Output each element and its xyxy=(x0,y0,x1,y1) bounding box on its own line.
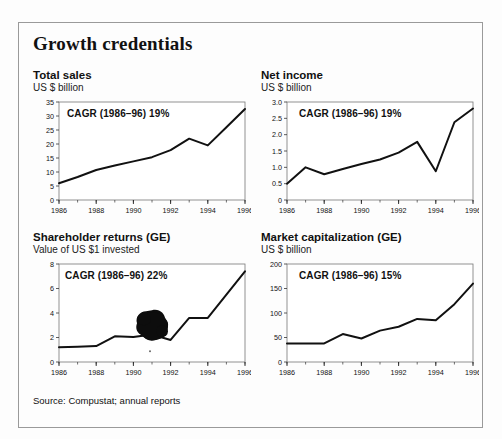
svg-text:1988: 1988 xyxy=(88,368,104,377)
svg-text:1992: 1992 xyxy=(163,206,179,215)
chart-title: Total sales xyxy=(33,69,251,82)
svg-text:5: 5 xyxy=(50,182,54,191)
page-title: Growth credentials xyxy=(33,33,193,55)
svg-text:1996: 1996 xyxy=(237,368,251,377)
chart-subtitle: Value of US $1 invested xyxy=(33,244,251,256)
chart-panel-market-capitalization: Market capitalization (GE) US $ billion … xyxy=(261,231,479,391)
svg-text:1988: 1988 xyxy=(316,368,332,377)
svg-text:4: 4 xyxy=(50,309,54,318)
chart-panel-net-income: Net income US $ billion 00.51.01.52.02.5… xyxy=(261,69,479,229)
figure-frame: Growth credentials Total sales US $ bill… xyxy=(18,22,483,428)
svg-text:50: 50 xyxy=(274,333,282,342)
svg-text:6: 6 xyxy=(50,284,54,293)
plot-area: 05101520253035198619881990199219941996 C… xyxy=(33,96,251,226)
svg-text:1990: 1990 xyxy=(353,206,369,215)
svg-text:1986: 1986 xyxy=(279,368,295,377)
svg-text:0: 0 xyxy=(50,196,54,205)
plot-area: 02468198619881990199219941996 CAGR (1986… xyxy=(33,258,251,388)
plot-area: 00.51.01.52.02.53.0198619881990199219941… xyxy=(261,96,479,226)
svg-text:10: 10 xyxy=(46,168,54,177)
chart-panel-total-sales: Total sales US $ billion 051015202530351… xyxy=(33,69,251,229)
svg-text:2.0: 2.0 xyxy=(272,130,282,139)
svg-text:3.0: 3.0 xyxy=(272,98,282,107)
svg-text:1.0: 1.0 xyxy=(272,163,282,172)
svg-text:1990: 1990 xyxy=(125,368,141,377)
svg-text:1994: 1994 xyxy=(428,368,444,377)
svg-text:35: 35 xyxy=(46,98,54,107)
chart-title: Net income xyxy=(261,69,479,82)
cagr-annotation: CAGR (1986–96) 22% xyxy=(65,270,167,281)
svg-text:1992: 1992 xyxy=(163,368,179,377)
svg-text:30: 30 xyxy=(46,112,54,121)
svg-text:1994: 1994 xyxy=(200,368,216,377)
plot-area: 050100150200198619881990199219941996 CAG… xyxy=(261,258,479,388)
chart-title: Shareholder returns (GE) xyxy=(33,231,251,244)
svg-text:20: 20 xyxy=(46,140,54,149)
svg-text:1992: 1992 xyxy=(391,368,407,377)
svg-text:1988: 1988 xyxy=(316,206,332,215)
svg-text:2: 2 xyxy=(50,333,54,342)
chart-title: Market capitalization (GE) xyxy=(261,231,479,244)
svg-text:1986: 1986 xyxy=(51,206,67,215)
chart-panel-shareholder-returns: Shareholder returns (GE) Value of US $1 … xyxy=(33,231,251,391)
svg-text:0.5: 0.5 xyxy=(272,179,282,188)
cagr-annotation: CAGR (1986–96) 15% xyxy=(299,270,401,281)
svg-text:1994: 1994 xyxy=(428,206,444,215)
cagr-annotation: CAGR (1986–96) 19% xyxy=(67,108,169,119)
svg-text:1990: 1990 xyxy=(125,206,141,215)
svg-text:1988: 1988 xyxy=(88,206,104,215)
svg-text:1996: 1996 xyxy=(465,368,479,377)
svg-text:15: 15 xyxy=(46,154,54,163)
svg-text:150: 150 xyxy=(270,284,282,293)
svg-text:1994: 1994 xyxy=(200,206,216,215)
source-note: Source: Compustat; annual reports xyxy=(33,395,180,406)
svg-text:1.5: 1.5 xyxy=(272,147,282,156)
svg-text:200: 200 xyxy=(270,260,282,269)
svg-text:1986: 1986 xyxy=(51,368,67,377)
svg-text:25: 25 xyxy=(46,126,54,135)
svg-text:0: 0 xyxy=(278,196,282,205)
svg-text:2.5: 2.5 xyxy=(272,114,282,123)
svg-text:1996: 1996 xyxy=(465,206,479,215)
chart-subtitle: US $ billion xyxy=(261,244,479,256)
chart-subtitle: US $ billion xyxy=(33,82,251,94)
svg-text:1996: 1996 xyxy=(237,206,251,215)
svg-text:1990: 1990 xyxy=(353,368,369,377)
svg-text:0: 0 xyxy=(278,358,282,367)
svg-text:100: 100 xyxy=(270,309,282,318)
svg-text:0: 0 xyxy=(50,358,54,367)
svg-text:1992: 1992 xyxy=(391,206,407,215)
svg-text:8: 8 xyxy=(50,260,54,269)
cagr-annotation: CAGR (1986–96) 19% xyxy=(299,108,401,119)
svg-text:1986: 1986 xyxy=(279,206,295,215)
chart-subtitle: US $ billion xyxy=(261,82,479,94)
